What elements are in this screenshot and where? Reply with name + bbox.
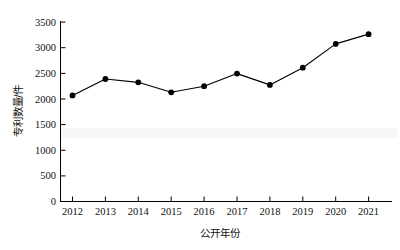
data-point <box>234 71 240 77</box>
x-tick-label: 2020 <box>325 206 346 217</box>
x-tick-label: 2019 <box>292 206 313 217</box>
y-tick-label: 1500 <box>35 119 56 130</box>
data-point <box>366 31 372 37</box>
data-point <box>201 83 207 89</box>
y-tick-label: 2000 <box>35 94 56 105</box>
y-tick-label: 0 <box>51 196 56 207</box>
x-tick-label: 2021 <box>358 206 379 217</box>
data-point <box>333 41 339 47</box>
x-tick-label: 2015 <box>161 206 182 217</box>
y-tick-label: 3000 <box>35 42 56 53</box>
data-point <box>168 89 174 95</box>
y-axis-title: 专利数量/件 <box>12 85 24 138</box>
x-tick-label: 2017 <box>227 206 248 217</box>
data-point <box>300 65 306 71</box>
x-tick-label: 2016 <box>194 206 215 217</box>
line-chart: 0 500 1000 1500 2000 2500 3000 3500 2012… <box>0 0 400 250</box>
x-axis-title: 公开年份 <box>200 227 241 239</box>
x-tick-label: 2014 <box>128 206 150 217</box>
x-tick-label: 2012 <box>62 206 83 217</box>
data-point <box>135 79 141 85</box>
chart-figure: 0 500 1000 1500 2000 2500 3000 3500 2012… <box>0 0 400 250</box>
data-point <box>103 76 109 82</box>
y-tick-label: 3500 <box>35 17 56 28</box>
data-point <box>70 93 76 99</box>
scan-artifact-band <box>60 128 398 138</box>
x-tick-label: 2013 <box>95 206 116 217</box>
y-tick-label: 2500 <box>35 68 56 79</box>
x-tick-label: 2018 <box>259 206 280 217</box>
data-point <box>267 82 273 88</box>
y-tick-label: 500 <box>40 170 56 181</box>
y-tick-label: 1000 <box>35 145 56 156</box>
